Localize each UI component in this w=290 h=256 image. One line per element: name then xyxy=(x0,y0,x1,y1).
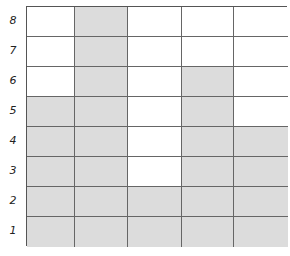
shaded-cell xyxy=(27,157,75,187)
shaded-cell xyxy=(234,127,288,157)
shaded-cell xyxy=(27,127,75,157)
shaded-cell xyxy=(182,127,234,157)
shaded-cell xyxy=(128,217,182,247)
empty-cell xyxy=(234,7,288,37)
row-label: 6 xyxy=(6,66,20,96)
shaded-cell xyxy=(182,217,234,247)
shaded-cell xyxy=(75,37,128,67)
row-label: 8 xyxy=(6,6,20,36)
row-label: 5 xyxy=(6,96,20,126)
shaded-cell xyxy=(27,187,75,217)
shaded-cell xyxy=(27,97,75,127)
row-label: 7 xyxy=(6,36,20,66)
shaded-cell xyxy=(234,217,288,247)
empty-cell xyxy=(128,127,182,157)
shaded-cell xyxy=(182,157,234,187)
shaded-grid xyxy=(26,6,287,246)
empty-cell xyxy=(128,7,182,37)
row-label: 2 xyxy=(6,186,20,216)
empty-cell xyxy=(27,67,75,97)
shaded-cell xyxy=(182,67,234,97)
row-label: 1 xyxy=(6,216,20,246)
row-label: 3 xyxy=(6,156,20,186)
shaded-cell xyxy=(75,67,128,97)
empty-cell xyxy=(27,7,75,37)
shaded-cell xyxy=(75,187,128,217)
shaded-cell xyxy=(27,217,75,247)
empty-cell xyxy=(128,37,182,67)
shaded-cell xyxy=(234,157,288,187)
shaded-cell xyxy=(75,7,128,37)
shaded-cell xyxy=(128,187,182,217)
row-label: 4 xyxy=(6,126,20,156)
empty-cell xyxy=(234,67,288,97)
shaded-cell xyxy=(75,127,128,157)
empty-cell xyxy=(128,67,182,97)
empty-cell xyxy=(128,157,182,187)
empty-cell xyxy=(182,7,234,37)
empty-cell xyxy=(234,37,288,67)
shaded-cell xyxy=(182,187,234,217)
shaded-cell xyxy=(234,187,288,217)
empty-cell xyxy=(234,97,288,127)
empty-cell xyxy=(182,37,234,67)
shaded-cell xyxy=(75,157,128,187)
empty-cell xyxy=(27,37,75,67)
empty-cell xyxy=(128,97,182,127)
shaded-cell xyxy=(75,97,128,127)
shaded-cell xyxy=(182,97,234,127)
shaded-cell xyxy=(75,217,128,247)
